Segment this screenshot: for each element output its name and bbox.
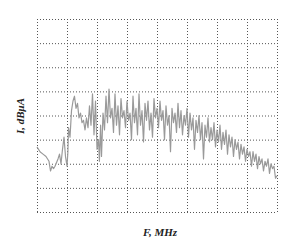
x-axis-label: F, MHz xyxy=(120,226,200,240)
y-axis-label: I, dBμA xyxy=(14,96,30,136)
chart-canvas xyxy=(0,0,291,249)
